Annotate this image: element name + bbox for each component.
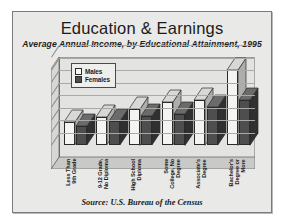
- bar-3d-faces: [207, 107, 218, 145]
- gridline: [59, 45, 255, 46]
- bar-3d-faces: [76, 126, 87, 145]
- chart-figure: Education & Earnings Average Annual Inco…: [12, 11, 272, 213]
- x-tick-label: Associate's Degree: [195, 159, 207, 189]
- legend-label-females: Females: [85, 76, 110, 83]
- bar-females: [239, 100, 250, 145]
- source-note: Source: U.S. Bureau of the Census: [13, 198, 271, 207]
- bar-3d-faces: [129, 109, 140, 145]
- bar-3d-faces: [96, 117, 107, 145]
- legend-item-females: Females: [75, 76, 110, 83]
- x-tick-label: High School Diploma: [130, 159, 142, 191]
- legend-swatch-males: [75, 68, 82, 75]
- x-tick-label: Bachelor's Degree or More: [228, 159, 247, 186]
- bar-females: [207, 107, 218, 145]
- legend-item-males: Males: [75, 68, 110, 75]
- bar-females: [76, 126, 87, 145]
- legend-label-males: Males: [85, 68, 102, 75]
- chart-subtitle: Average Annual Income, by Educational At…: [13, 39, 271, 49]
- bar-males: [129, 109, 140, 145]
- bar-males: [194, 100, 205, 145]
- x-tick-label: Some College, No Degree: [163, 159, 182, 189]
- chart-title: Education & Earnings: [13, 19, 271, 38]
- x-tick-label: 9-12 Grade, No Diploma: [97, 159, 109, 189]
- gridline: [59, 133, 255, 134]
- bar-3d-faces: [174, 114, 185, 145]
- x-tick-label: Less Than 9th Grade: [65, 159, 77, 186]
- bar-females: [174, 114, 185, 145]
- gridline: [59, 120, 255, 121]
- legend-swatch-females: [75, 76, 82, 83]
- gridline: [59, 108, 255, 109]
- gridline: [59, 58, 255, 59]
- bar-3d-faces: [239, 100, 250, 145]
- bar-3d-faces: [194, 100, 205, 145]
- gridline: [59, 95, 255, 96]
- plot-area: Males Females: [51, 57, 255, 157]
- chart-legend: Males Females: [71, 63, 116, 88]
- bar-males: [96, 117, 107, 145]
